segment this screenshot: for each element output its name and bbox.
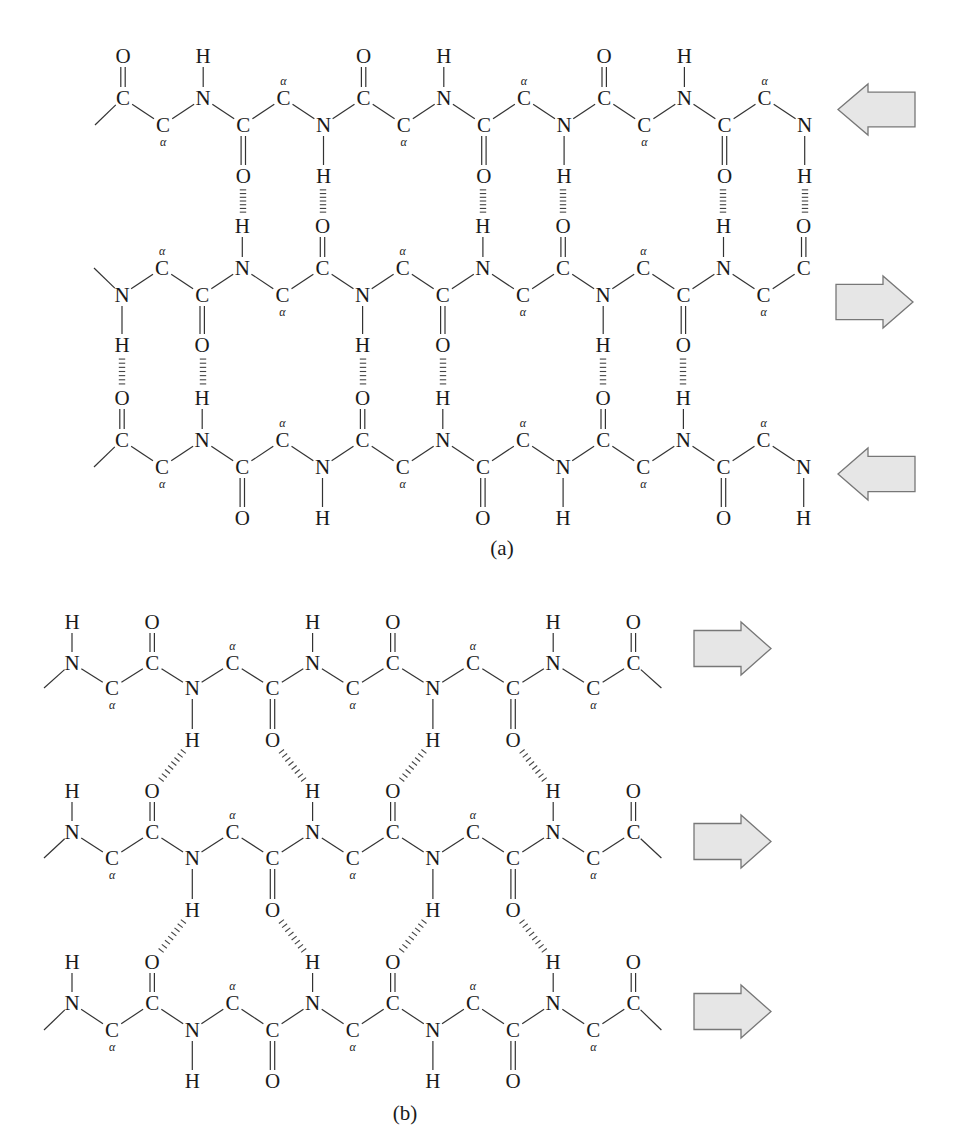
- backbone-bond: [282, 838, 304, 852]
- nitrogen-atom: N: [305, 651, 320, 675]
- backbone-bond: [81, 1009, 103, 1024]
- backbone-bond: [333, 104, 355, 119]
- amide-hydrogen-atom: H: [305, 779, 320, 803]
- arrow-right-icon: [694, 622, 771, 675]
- amide-hydrogen-atom: H: [425, 1069, 440, 1093]
- carbonyl-carbon-atom: C: [626, 820, 640, 844]
- amide-hydrogen-atom: H: [114, 333, 129, 357]
- strand-3: COCαNHCOCαNHCOCαNHCOCαNHCOCαNHCOCαNH: [94, 386, 915, 530]
- alpha-carbon-atom: C: [346, 676, 360, 700]
- carbonyl-carbon-atom: C: [596, 428, 610, 452]
- alpha-label: α: [229, 808, 236, 822]
- backbone-bond: [132, 104, 154, 119]
- backbone-bond: [492, 274, 514, 289]
- nitrogen-atom: N: [185, 676, 200, 700]
- carbonyl-carbon-atom: C: [357, 86, 371, 110]
- backbone-bond: [332, 446, 354, 461]
- backbone-bond: [161, 838, 183, 852]
- hbond-hash: [162, 774, 167, 778]
- amide-hydrogen-atom: H: [195, 386, 210, 410]
- carbonyl-oxygen-atom: O: [236, 164, 251, 188]
- backbone-bond: [201, 1009, 223, 1024]
- hbond-hash: [412, 932, 417, 936]
- alpha-label: α: [109, 868, 116, 882]
- strand-1: COCαNHCOCαNHCOCαNHCOCαNHCOCαNHCOCαNH: [95, 44, 915, 188]
- backbone-bond: [493, 104, 515, 119]
- backbone-bond: [94, 447, 115, 467]
- amide-hydrogen-atom: H: [235, 214, 250, 238]
- alpha-carbon-atom: C: [636, 455, 650, 479]
- strand-1: NHCαCONHCαCONHCαCONHCαCONHCαCO: [44, 610, 771, 752]
- backbone-bond: [332, 274, 354, 289]
- amide-hydrogen-atom: H: [796, 506, 811, 530]
- hbond-hash: [529, 932, 534, 936]
- carbonyl-oxygen-atom: O: [356, 44, 371, 68]
- backbone-bond: [251, 446, 273, 461]
- carbonyl-carbon-atom: C: [436, 283, 450, 307]
- hbond-hash: [535, 940, 540, 944]
- carbonyl-carbon-atom: C: [676, 283, 690, 307]
- alpha-carbon-atom: C: [397, 113, 411, 137]
- backbone-bond: [442, 838, 464, 852]
- carbonyl-oxygen-atom: O: [265, 728, 280, 752]
- backbone-bond: [773, 446, 795, 461]
- arrow-left-icon: [838, 84, 915, 135]
- hbond-hash: [526, 928, 531, 932]
- carbonyl-carbon-atom: C: [506, 1018, 520, 1042]
- nitrogen-atom: N: [195, 428, 210, 452]
- backbone-bond: [282, 1009, 304, 1024]
- carbonyl-oxygen-atom: O: [114, 386, 129, 410]
- backbone-bond: [94, 268, 115, 288]
- backbone-bond: [402, 838, 424, 852]
- carbonyl-carbon-atom: C: [476, 455, 490, 479]
- carbonyl-carbon-atom: C: [717, 113, 731, 137]
- backbone-bond: [211, 274, 233, 289]
- panel-b-label: (b): [393, 1101, 418, 1125]
- alpha-carbon-atom: C: [466, 651, 480, 675]
- alpha-label: α: [761, 74, 768, 88]
- backbone-bond: [81, 669, 102, 682]
- amide-hydrogen-atom: H: [475, 214, 490, 238]
- hbond-hash: [292, 766, 297, 770]
- backbone-bond: [322, 838, 344, 852]
- alpha-carbon-atom: C: [225, 651, 239, 675]
- nitrogen-atom: N: [185, 846, 200, 870]
- backbone-bond: [452, 446, 474, 461]
- backbone-bond: [562, 838, 584, 852]
- nitrogen-atom: N: [546, 991, 561, 1015]
- alpha-label: α: [470, 979, 477, 993]
- hbond-hash: [532, 936, 537, 940]
- backbone-bond: [162, 669, 183, 682]
- amide-hydrogen-atom: H: [185, 1069, 200, 1093]
- strand-2: NHCαCONHCαCONHCαCONHCαCONHCαCO: [44, 779, 771, 922]
- alpha-label: α: [159, 244, 166, 258]
- alpha-label: α: [350, 1040, 357, 1054]
- carbonyl-oxygen-atom: O: [265, 1069, 280, 1093]
- hbond-hash: [415, 928, 420, 932]
- backbone-bond: [171, 446, 193, 461]
- nitrogen-atom: N: [64, 820, 79, 844]
- carbonyl-carbon-atom: C: [626, 651, 640, 675]
- alpha-label: α: [279, 305, 286, 319]
- backbone-bond: [452, 274, 474, 289]
- carbonyl-carbon-atom: C: [386, 991, 400, 1015]
- backbone-bond: [602, 1009, 624, 1024]
- backbone-bond: [641, 839, 662, 858]
- nitrogen-atom: N: [196, 86, 211, 110]
- arrow-right-icon: [694, 815, 771, 868]
- nitrogen-atom: N: [475, 256, 490, 280]
- alpha-label: α: [470, 639, 477, 653]
- amide-hydrogen-atom: H: [355, 333, 370, 357]
- carbonyl-oxygen-atom: O: [506, 898, 521, 922]
- alpha-carbon-atom: C: [105, 676, 119, 700]
- hbond-hash: [532, 766, 537, 770]
- hbond-hash: [282, 753, 287, 757]
- alpha-carbon-atom: C: [637, 113, 651, 137]
- backbone-bond: [251, 274, 273, 289]
- backbone-bond: [293, 104, 315, 119]
- carbonyl-oxygen-atom: O: [195, 333, 210, 357]
- alpha-carbon-atom: C: [636, 256, 650, 280]
- carbonyl-carbon-atom: C: [115, 428, 129, 452]
- hbond-hash: [165, 770, 170, 774]
- amide-hydrogen-atom: H: [596, 333, 611, 357]
